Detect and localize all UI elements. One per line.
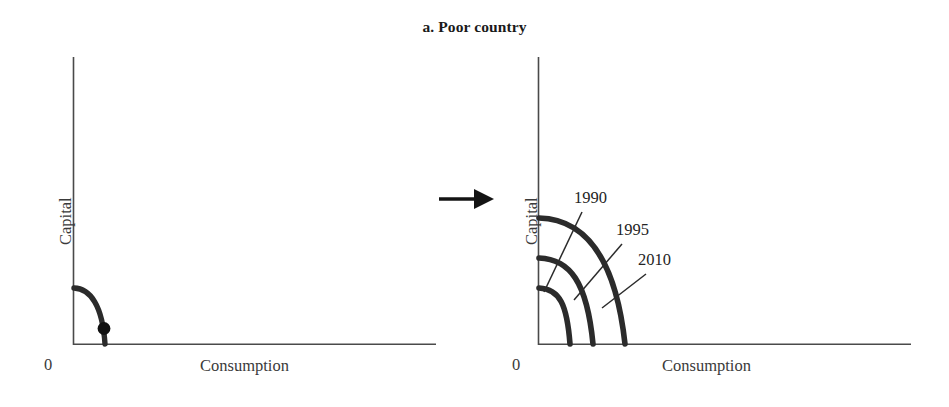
curve-label-1995: 1995 [616, 220, 649, 240]
figure-root: a. Poor country Capital Consumption 0 [0, 0, 949, 407]
left-y-axis-label: Capital [56, 197, 76, 245]
chart-panel-left: Capital Consumption 0 [0, 0, 470, 407]
chart-panel-right: Capital Consumption 0 1990 1995 2010 [470, 0, 949, 407]
left-frontier-curve [74, 288, 105, 344]
curve-label-1990: 1990 [574, 188, 607, 208]
production-point-marker [98, 322, 111, 335]
frontier-curve-2010 [539, 218, 625, 344]
right-y-axis-label: Capital [522, 197, 542, 245]
right-origin-label: 0 [512, 355, 520, 375]
left-origin-label: 0 [44, 355, 52, 375]
left-x-axis-label: Consumption [200, 356, 289, 376]
right-x-axis-label: Consumption [662, 356, 751, 376]
frontier-curve-1990 [539, 288, 570, 344]
curve-label-2010: 2010 [638, 250, 671, 270]
